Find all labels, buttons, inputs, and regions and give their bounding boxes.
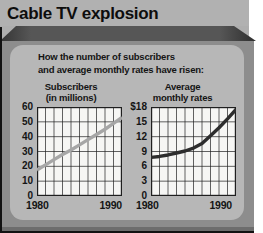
y-tick-label: 12 (136, 132, 147, 142)
rates-chart: Average monthly rates $1815129630 1980 1… (129, 82, 236, 211)
intro-line-2: and average monthly rates have risen: (38, 64, 204, 77)
y-tick-label: 15 (136, 117, 147, 127)
rates-x-axis: 1980 1990 (136, 199, 232, 211)
intro-line-1: How the number of subscribers (38, 51, 204, 64)
rates-chart-body: $1815129630 (129, 107, 236, 196)
left-border (0, 27, 2, 233)
title-bar: Cable TV explosion (0, 0, 249, 26)
subscribers-chart-title: Subscribers (20, 82, 122, 93)
page-title: Cable TV explosion (0, 0, 249, 27)
bottom-border (0, 231, 254, 233)
y-tick-label: 10 (22, 176, 33, 186)
subscribers-x-axis: 1980 1990 (26, 199, 122, 211)
3d-ridge (0, 26, 256, 41)
y-tick-label: $18 (130, 102, 147, 112)
y-tick-label: 60 (22, 102, 33, 112)
x-tick-1990: 1990 (99, 199, 122, 211)
y-tick-label: 50 (22, 117, 33, 127)
subscribers-chart-body: 6050403020100 (20, 107, 122, 196)
x-tick-1990: 1990 (209, 199, 232, 211)
y-tick-label: 20 (22, 161, 33, 171)
subscribers-plot (37, 107, 122, 196)
x-tick-1980: 1980 (136, 199, 159, 211)
rates-plot (151, 107, 236, 196)
y-tick-label: 30 (22, 147, 33, 157)
intro-text: How the number of subscribers and averag… (38, 51, 204, 76)
y-tick-label: 3 (141, 176, 147, 186)
subscribers-y-axis: 6050403020100 (20, 107, 35, 196)
y-tick-label: 0 (27, 191, 33, 201)
subscribers-chart: Subscribers (in millions) 6050403020100 … (20, 82, 122, 211)
y-tick-label: 6 (141, 161, 147, 171)
subscribers-chart-subtitle: (in millions) (20, 93, 122, 104)
rates-chart-title: Average (129, 82, 236, 93)
rates-y-axis: $1815129630 (129, 107, 149, 196)
infographic: Cable TV explosion How the number of sub… (0, 0, 263, 233)
y-tick-label: 0 (141, 191, 147, 201)
y-tick-label: 40 (22, 132, 33, 142)
y-tick-label: 9 (141, 147, 147, 157)
